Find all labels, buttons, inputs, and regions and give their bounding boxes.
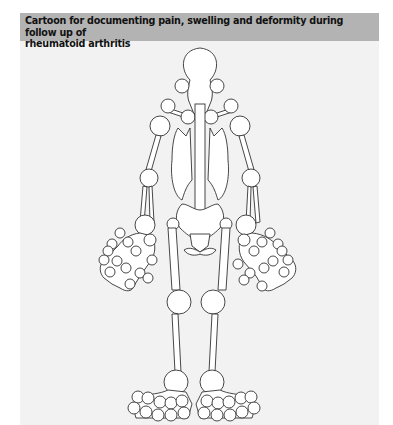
elbow-joint-left	[242, 169, 260, 187]
foot-right	[128, 390, 192, 421]
hand-left	[233, 228, 296, 291]
knee-joint-right	[167, 290, 191, 314]
shoulder-joint-right	[150, 116, 170, 136]
hand-right	[99, 228, 157, 291]
wrist-joint-left	[236, 215, 256, 235]
tmj-joint-right	[175, 79, 189, 93]
sternoclavicular-joint-left	[204, 110, 218, 124]
skeleton-diagram	[0, 0, 393, 425]
ribcage-left	[208, 128, 229, 200]
sternoclavicular-joint-right	[181, 110, 195, 124]
wrist-joint-right	[135, 215, 155, 235]
ribcage-right	[171, 128, 192, 200]
shoulder-joint-left	[230, 116, 250, 136]
acromioclavicular-joint-right	[161, 99, 175, 113]
elbow-joint-right	[140, 169, 158, 187]
acromioclavicular-joint-left	[224, 99, 238, 113]
knee-joint-left	[201, 290, 225, 314]
tmj-joint-left	[210, 79, 224, 93]
foot-left	[196, 390, 260, 421]
